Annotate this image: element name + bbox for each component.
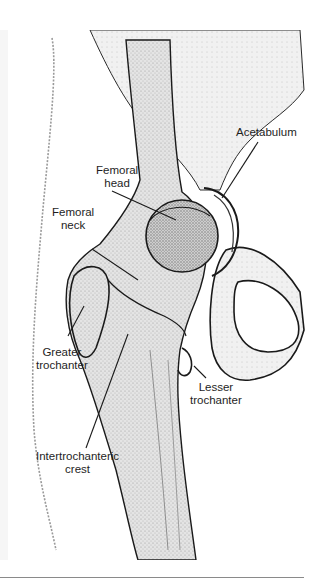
label-femoral-head-line1: Femoral xyxy=(96,164,138,177)
label-greater-trochanter-line1: Greater xyxy=(36,346,88,359)
label-acetabulum-line1: Acetabulum xyxy=(236,126,297,139)
label-intertrochanteric-crest-line1: Intertrochanteric xyxy=(36,450,119,463)
label-femoral-head: Femoral head xyxy=(96,164,138,190)
bottom-divider xyxy=(0,577,304,578)
label-femoral-neck-line2: neck xyxy=(52,219,94,232)
label-greater-trochanter: Greater trochanter xyxy=(36,346,88,372)
label-greater-trochanter-line2: trochanter xyxy=(36,359,88,372)
label-femoral-neck-line1: Femoral xyxy=(52,206,94,219)
label-intertrochanteric-crest: Intertrochanteric crest xyxy=(36,450,119,476)
label-femoral-neck: Femoral neck xyxy=(52,206,94,232)
hip-joint-illustration xyxy=(0,30,318,560)
leader-lesser-trochanter xyxy=(194,366,206,378)
label-intertrochanteric-crest-line2: crest xyxy=(36,463,119,476)
label-acetabulum: Acetabulum xyxy=(236,126,297,139)
label-lesser-trochanter-line1: Lesser xyxy=(190,381,242,394)
hip-anatomy-figure: Femoral head Acetabulum Femoral neck Gre… xyxy=(0,30,318,560)
label-lesser-trochanter-line2: trochanter xyxy=(190,394,242,407)
label-lesser-trochanter: Lesser trochanter xyxy=(190,381,242,407)
label-femoral-head-line2: head xyxy=(96,177,138,190)
